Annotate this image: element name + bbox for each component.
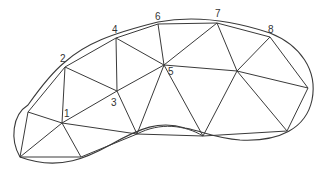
outer-boundary-curve [14, 19, 313, 163]
hull-edges [20, 23, 308, 157]
label-8: 8 [268, 24, 274, 35]
mesh-diagram: 1 2 3 4 5 6 7 8 [0, 0, 324, 174]
interior-edges [20, 23, 308, 157]
label-7: 7 [215, 8, 221, 19]
label-5: 5 [168, 66, 174, 77]
label-2: 2 [60, 53, 66, 64]
label-6: 6 [155, 11, 161, 22]
label-4: 4 [112, 24, 118, 35]
label-3: 3 [111, 97, 117, 108]
label-1: 1 [64, 108, 70, 119]
